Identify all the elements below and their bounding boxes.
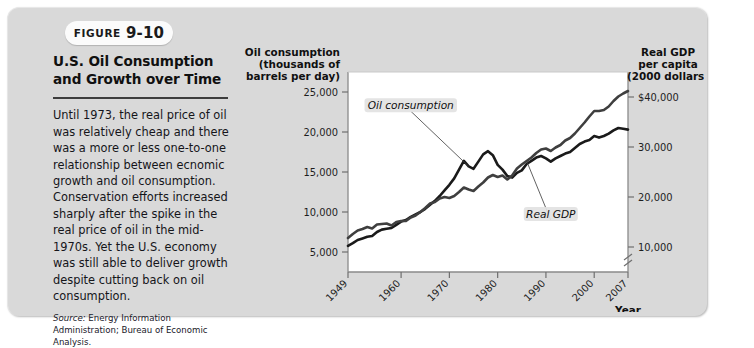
right-axis-title-line: (2000 dollars) [627,70,704,82]
left-tick-label: 5,000 [310,247,338,258]
figure-card: FIGURE 9-10 U.S. Oil Consumption and Gro… [7,7,707,316]
figure-badge: FIGURE 9-10 [65,21,173,45]
figure-badge-number: 9-10 [126,24,164,42]
left-axis-title-line: (thousands of [259,58,341,70]
left-axis-title-line: barrels per day) [246,70,340,82]
left-tick-label: 25,000 [303,87,338,98]
x-tick-label: 1970 [425,278,451,304]
figure-body-text: Until 1973, the real price of oil was re… [53,107,239,304]
chart-container: Oil consumption(thousands ofbarrels per … [244,44,704,312]
right-axis-title-line: Real GDP [641,46,695,58]
right-tick-label: 20,000 [638,192,673,203]
left-tick-label: 15,000 [303,167,338,178]
left-tick-label: 20,000 [303,127,338,138]
left-axis-title-line: Oil consumption [245,46,340,58]
title-divider [53,97,228,99]
source-prefix: Source: [53,313,86,323]
right-tick-label: $40,000 [638,92,679,103]
right-tick-label: 30,000 [638,142,673,153]
x-tick-label: 1960 [377,278,403,304]
figure-title: U.S. Oil Consumption and Growth over Tim… [53,53,239,88]
x-tick-label: 2007 [604,278,630,304]
series-annotation-label: Oil consumption [368,99,454,111]
figure-badge-label: FIGURE [74,27,121,39]
figure-source: Source: Energy Information Administratio… [53,313,239,348]
right-axis-title-line: per capita [638,58,697,70]
x-tick-label: 1980 [473,278,499,304]
x-axis-title: Year [614,304,642,312]
right-tick-label: 10,000 [638,242,673,253]
left-tick-label: 10,000 [303,207,338,218]
line-chart: Oil consumption(thousands ofbarrels per … [244,44,704,312]
x-tick-label: 2000 [570,278,596,304]
series-annotation-label: Real GDP [526,208,576,220]
x-tick-label: 1990 [522,278,548,304]
figure-text-column: U.S. Oil Consumption and Growth over Tim… [53,53,239,348]
x-tick-label: 1949 [324,278,350,304]
